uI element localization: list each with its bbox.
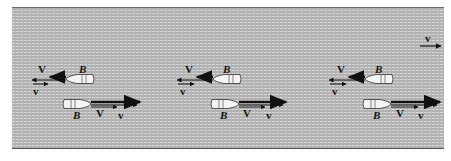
boat-lower-3 bbox=[363, 100, 391, 109]
group-2 bbox=[177, 75, 286, 109]
boat-lower-1 bbox=[63, 100, 91, 109]
group-1 bbox=[32, 75, 140, 109]
lower-V-label-2: V bbox=[243, 108, 251, 119]
vector-diagram bbox=[0, 0, 451, 161]
upper-V-label-3: V bbox=[337, 64, 345, 75]
group-3 bbox=[329, 75, 440, 109]
lower-v-label-1: v bbox=[118, 110, 124, 121]
lower-B-label-1: B bbox=[73, 110, 80, 121]
upper-B-label-3: B bbox=[375, 64, 382, 75]
upper-B-label-1: B bbox=[79, 64, 86, 75]
boat-upper-3 bbox=[365, 75, 393, 84]
upper-v-label-2: v bbox=[180, 86, 186, 97]
boat-upper-2 bbox=[213, 75, 241, 84]
lower-V-label-1: V bbox=[96, 108, 104, 119]
lower-B-label-2: B bbox=[220, 110, 227, 121]
upper-V-label-1: V bbox=[38, 64, 46, 75]
current-v-label: v bbox=[425, 33, 431, 44]
upper-v-label-1: v bbox=[33, 86, 39, 97]
boat-upper-1 bbox=[66, 75, 94, 84]
upper-B-label-2: B bbox=[223, 64, 230, 75]
upper-V-label-2: V bbox=[185, 64, 193, 75]
lower-v-label-3: v bbox=[418, 110, 424, 121]
lower-v-label-2: v bbox=[266, 110, 272, 121]
upper-v-label-3: v bbox=[332, 86, 338, 97]
boat-lower-2 bbox=[211, 100, 239, 109]
lower-V-label-3: V bbox=[396, 108, 404, 119]
lower-B-label-3: B bbox=[373, 110, 380, 121]
